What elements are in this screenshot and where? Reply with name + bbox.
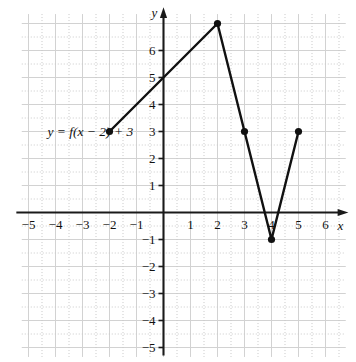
x-tick-label: −3	[76, 217, 90, 232]
y-tick-label: 4	[149, 97, 156, 112]
y-tick-label: 3	[149, 124, 156, 139]
x-tick-label: −4	[49, 217, 63, 232]
x-tick-label: 5	[295, 217, 302, 232]
x-tick-label: −5	[22, 217, 36, 232]
y-tick-label: 6	[149, 43, 156, 58]
x-tick-label: 1	[187, 217, 194, 232]
coordinate-plane: −5−4−3−2−1123456 654321−1−2−3−4−5 y = f(…	[0, 0, 356, 362]
data-point-marker	[214, 20, 221, 27]
y-tick-label: −1	[142, 232, 156, 247]
x-tick-label: 2	[214, 217, 221, 232]
y-tick-label: 1	[149, 178, 156, 193]
y-tick-label: −3	[142, 286, 156, 301]
x-tick-label: 6	[322, 217, 329, 232]
x-tick-label: −2	[103, 217, 117, 232]
data-point-marker	[295, 128, 302, 135]
equation-label: y = f(x − 2) + 3	[45, 124, 133, 139]
y-axis-label: y	[150, 5, 158, 20]
data-point-marker	[268, 236, 275, 243]
x-tick-label: 3	[241, 217, 248, 232]
x-axis-label: x	[336, 218, 343, 233]
x-tick-label: −1	[130, 217, 144, 232]
y-tick-label: −4	[142, 313, 156, 328]
y-tick-label: 5	[149, 70, 156, 85]
data-point-marker	[241, 128, 248, 135]
figure-background	[0, 0, 356, 362]
equation-annotation: y = f(x − 2) + 3	[45, 124, 133, 139]
y-tick-label: −5	[142, 340, 156, 355]
y-tick-label: −2	[142, 259, 156, 274]
graph-figure: −5−4−3−2−1123456 654321−1−2−3−4−5 y = f(…	[0, 0, 356, 362]
y-tick-label: 2	[149, 151, 156, 166]
